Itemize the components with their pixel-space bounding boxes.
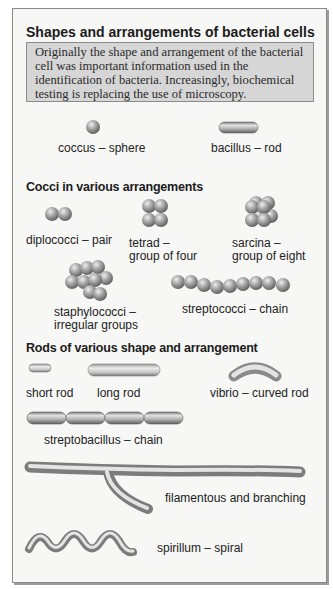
bacillus-cell [219, 122, 258, 133]
streptococci-cells [171, 275, 290, 294]
bacillus-label: bacillus – rod [211, 141, 282, 155]
short-rod-cell [29, 364, 51, 372]
staphylococci-cells [65, 260, 113, 301]
streptobacillus-label: streptobacillus – chain [44, 433, 163, 447]
coccus-label: coccus – sphere [58, 141, 145, 155]
cocci-section-heading: Cocci in various arrangements [26, 180, 203, 194]
staphylococci-label-line1: staphylococci – [54, 305, 136, 319]
staphylococci-label-line2: irregular groups [54, 318, 138, 332]
short-rod-label: short rod [26, 386, 73, 400]
tetrad-label-line2: group of four [129, 249, 197, 263]
spirillum-label: spirillum – spiral [157, 541, 243, 555]
tetrad-label-line1: tetrad – [129, 236, 170, 250]
streptobacillus-cells [27, 412, 183, 424]
sarcina-cells [245, 196, 278, 227]
diplococci-cells [45, 207, 72, 221]
rods-section-heading: Rods of various shape and arrangement [26, 341, 258, 355]
streptococci-label: streptococci – chain [182, 302, 288, 316]
filamentous-label: filamentous and branching [165, 491, 306, 505]
diplococci-label: diplococci – pair [26, 233, 112, 247]
long-rod-label: long rod [97, 386, 140, 400]
long-rod-cell [88, 364, 160, 376]
sarcina-label-line2: group of eight [232, 249, 305, 263]
tetrad-cells [142, 199, 168, 227]
sarcina-label-line1: sarcina – [232, 236, 281, 250]
vibrio-label: vibrio – curved rod [210, 386, 309, 400]
spirillum-cell [29, 533, 133, 552]
coccus-cell [86, 120, 100, 134]
